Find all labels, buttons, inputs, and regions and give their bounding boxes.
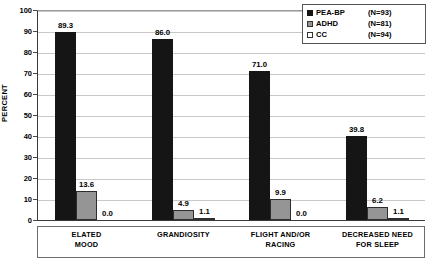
bar-pea-bp	[346, 136, 367, 220]
y-axis-tick-label: 30	[24, 153, 32, 162]
y-axis-tick-label: 40	[24, 132, 32, 141]
y-axis-tick-labels: 1009080706050403020100	[14, 10, 32, 220]
bar-pea-bp	[152, 39, 173, 220]
bar-value-label: 1.1	[393, 207, 404, 216]
bar-adhd	[270, 199, 291, 220]
y-axis-tick-mark	[33, 157, 37, 158]
legend-swatch-icon	[307, 10, 313, 16]
bar-value-label: 9.9	[275, 188, 286, 197]
category-label: ELATED MOOD	[38, 230, 135, 250]
y-axis-tick-label: 70	[24, 69, 32, 78]
bar-adhd	[76, 191, 97, 220]
legend-series-name: ADHD	[316, 19, 368, 28]
bar-value-label: 39.8	[349, 125, 364, 134]
bar-value-label: 4.9	[178, 199, 189, 208]
legend-series-count: (N=93)	[368, 8, 391, 17]
y-axis-tick-mark	[33, 31, 37, 32]
y-axis-tick-label: 50	[24, 111, 32, 120]
y-axis-tick-mark	[33, 73, 37, 74]
y-axis-tick-mark	[33, 10, 37, 11]
legend-item-pea-bp: PEA-BP(N=93)	[307, 7, 422, 18]
category-label: GRANDIOSITY	[135, 230, 232, 240]
bar-value-label: 1.1	[199, 207, 210, 216]
category-label: DECREASED NEED FOR SLEEP	[329, 230, 426, 250]
y-axis-tick-label: 0	[28, 216, 32, 225]
y-axis-tick-label: 20	[24, 174, 32, 183]
legend-series-name: PEA-BP	[316, 8, 368, 17]
y-axis-tick-mark	[33, 199, 37, 200]
y-axis-tick-label: 60	[24, 90, 32, 99]
legend-item-adhd: ADHD(N=81)	[307, 18, 422, 29]
bar-value-label: 89.3	[58, 21, 73, 30]
y-axis-tick-mark	[33, 52, 37, 53]
y-axis-tick-mark	[33, 220, 37, 221]
bar-value-label: 0.0	[296, 209, 307, 218]
y-axis-tick-mark	[33, 94, 37, 95]
bar-group: 89.313.60.0	[37, 10, 134, 220]
legend: PEA-BP(N=93)ADHD(N=81)CC(N=94)	[302, 4, 426, 44]
bar-cc	[194, 218, 215, 220]
bar-value-label: 0.0	[102, 209, 113, 218]
y-axis-title: PERCENT	[0, 84, 14, 122]
bar-adhd	[173, 210, 194, 220]
bar-cc	[388, 218, 409, 220]
legend-swatch-icon	[307, 32, 313, 38]
category-label: FLIGHT AND/OR RACING	[232, 230, 329, 250]
y-axis-tick-mark	[33, 136, 37, 137]
y-axis-tick-label: 10	[24, 195, 32, 204]
bar-adhd	[367, 207, 388, 220]
legend-item-cc: CC(N=94)	[307, 29, 422, 40]
x-axis-line	[37, 220, 425, 221]
bar-value-label: 71.0	[252, 60, 267, 69]
bar-value-label: 86.0	[155, 28, 170, 37]
category-label-box: ELATED MOODGRANDIOSITYFLIGHT AND/OR RACI…	[37, 226, 425, 258]
bar-value-label: 6.2	[372, 196, 383, 205]
y-axis-tick-label: 100	[19, 6, 32, 15]
legend-series-count: (N=81)	[368, 19, 391, 28]
bar-chart: PERCENT 1009080706050403020100 89.313.60…	[0, 0, 431, 264]
bar-value-label: 13.6	[79, 180, 94, 189]
y-axis-tick-label: 90	[24, 27, 32, 36]
legend-swatch-icon	[307, 21, 313, 27]
y-axis-tick-mark	[33, 115, 37, 116]
y-axis-tick-mark	[33, 178, 37, 179]
bar-pea-bp	[55, 32, 76, 220]
bar-group: 86.04.91.1	[134, 10, 231, 220]
legend-series-name: CC	[316, 30, 368, 39]
bar-pea-bp	[249, 71, 270, 220]
y-axis-tick-label: 80	[24, 48, 32, 57]
legend-series-count: (N=94)	[368, 30, 391, 39]
